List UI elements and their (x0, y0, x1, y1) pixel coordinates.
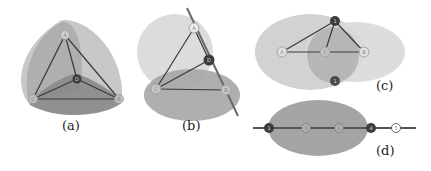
node-1: 1 (264, 123, 274, 133)
svg-text:1: 1 (333, 18, 336, 24)
panel-c-diagram: 1 A C B 1 (250, 0, 431, 100)
svg-text:A: A (63, 32, 67, 38)
caption-a: (a) (62, 118, 80, 133)
svg-text:A: A (280, 49, 284, 55)
node-B: B (221, 85, 231, 95)
node-D: D (204, 55, 215, 66)
svg-text:3: 3 (304, 125, 307, 131)
svg-text:B: B (224, 87, 228, 93)
caption-b: (b) (182, 118, 200, 133)
node-C: C (320, 47, 330, 57)
svg-text:2: 2 (337, 125, 340, 131)
svg-text:1: 1 (333, 78, 336, 84)
panel-d: 1 3 2 4 5 (d) (250, 95, 431, 171)
node-3: 3 (302, 124, 311, 133)
node-1-bottom: 1 (330, 76, 340, 86)
node-C: C (29, 95, 38, 104)
panel-a: A D C B (a) (0, 0, 130, 171)
svg-text:C: C (154, 86, 158, 92)
node-5: 5 (392, 124, 401, 133)
node-4: 4 (366, 123, 376, 133)
svg-text:D: D (207, 57, 211, 63)
caption-c: (c) (376, 78, 393, 93)
svg-text:B: B (362, 49, 366, 55)
node-1-top: 1 (330, 16, 340, 26)
svg-text:A: A (192, 25, 196, 31)
svg-text:4: 4 (369, 125, 372, 131)
svg-text:C: C (323, 49, 327, 55)
node-2: 2 (335, 124, 344, 133)
region-overlap (307, 27, 359, 83)
node-D: D (73, 75, 82, 84)
panel-b: A D C B (b) (130, 0, 250, 171)
caption-d: (d) (376, 143, 394, 158)
svg-text:D: D (75, 76, 79, 82)
panel-d-diagram: 1 3 2 4 5 (250, 95, 431, 171)
panel-c: 1 A C B 1 (c) (250, 0, 431, 100)
node-B: B (359, 47, 369, 57)
svg-text:C: C (31, 96, 35, 102)
panel-b-diagram: A D C B (130, 0, 250, 171)
svg-text:5: 5 (394, 125, 397, 131)
node-B: B (115, 95, 124, 104)
panel-a-diagram: A D C B (0, 0, 130, 171)
node-C: C (151, 84, 161, 94)
node-A: A (189, 23, 199, 33)
svg-text:1: 1 (267, 125, 270, 131)
node-A: A (61, 31, 70, 40)
svg-text:B: B (117, 96, 121, 102)
node-A: A (277, 47, 287, 57)
